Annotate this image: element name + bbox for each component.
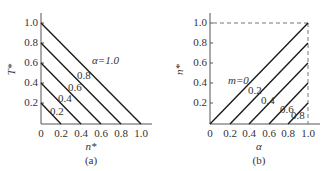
panel-a-y-tick: 0.2 xyxy=(16,97,38,108)
panel-b-y-tick: 0.4 xyxy=(185,77,207,88)
panel-b-y-axis-label: n* xyxy=(174,64,185,75)
panel-a-y-tick: 0.4 xyxy=(16,77,38,88)
panel-b-y-tick: 0.8 xyxy=(185,37,207,48)
panel-b-curve-label: m=0 xyxy=(228,75,249,86)
panel-b-curve-label: 0.8 xyxy=(291,110,305,121)
panel-a-x-axis-label: n* xyxy=(76,141,106,152)
panel-a-curve-label: 0.4 xyxy=(58,93,72,104)
panel-b-x-tick: 1.0 xyxy=(297,128,319,139)
panel-a-x-tick: 0.2 xyxy=(50,128,72,139)
panel-b-curve-label: 0.2 xyxy=(248,85,262,96)
panel-a-curve-label: α=1.0 xyxy=(92,55,119,66)
panel-a-x-tick: 0.8 xyxy=(110,128,132,139)
panel-b-x-tick: 0 xyxy=(199,128,221,139)
panel-b-y-tick: 0.6 xyxy=(185,57,207,68)
panel-a-y-tick: 1.0 xyxy=(16,17,38,28)
panel-b-curve-label: 0.4 xyxy=(261,95,275,106)
panel-a-curve-label: 0.8 xyxy=(77,70,91,81)
panel-b-y-tick: 0.2 xyxy=(185,97,207,108)
panel-a-x-tick: 1.0 xyxy=(130,128,152,139)
panel-b-x-axis-label: α xyxy=(244,141,274,152)
panel-b-x-tick: 0.4 xyxy=(238,128,260,139)
panel-a-x-tick: 0 xyxy=(30,128,52,139)
panel-a-x-tick: 0.4 xyxy=(70,128,92,139)
panel-a-caption: (a) xyxy=(76,155,106,166)
panel-a-y-tick: 0.8 xyxy=(16,37,38,48)
panel-a-x-tick: 0.6 xyxy=(90,128,112,139)
diagram-canvas xyxy=(0,0,328,171)
panel-a-y-tick: 0.6 xyxy=(16,57,38,68)
panel-a-curve-label: 0.2 xyxy=(50,106,64,117)
panel-b-y-tick: 1.0 xyxy=(185,17,207,28)
panel-b-x-tick: 0.8 xyxy=(277,128,299,139)
panel-b-caption: (b) xyxy=(244,155,274,166)
